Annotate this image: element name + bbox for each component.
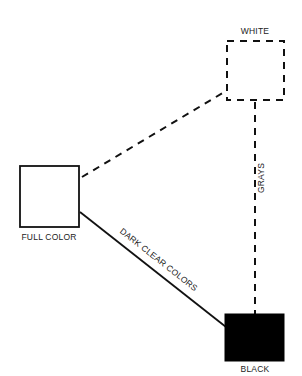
node-black-label: BLACK xyxy=(241,364,270,374)
edge-full-color-to-white xyxy=(82,91,226,177)
edge-label-dark-clear-colors: DARK CLEAR COLORS xyxy=(118,226,200,293)
node-black-box xyxy=(225,314,284,361)
edge-full-color-to-black xyxy=(80,212,226,327)
color-diagram: WHITE FULL COLOR BLACK DARK CLEAR COLORS… xyxy=(0,0,302,376)
node-full-color-box xyxy=(20,166,79,227)
node-white-label: WHITE xyxy=(241,26,270,36)
edge-label-grays: GRAYS xyxy=(256,163,266,193)
node-full-color-label: FULL COLOR xyxy=(21,232,76,242)
node-white-box xyxy=(227,41,284,100)
